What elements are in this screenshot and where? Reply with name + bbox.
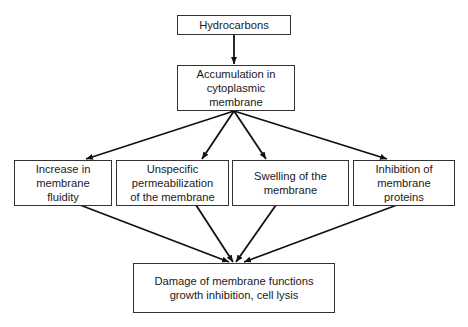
arrow-accumulation-to-swelling — [234, 111, 266, 159]
arrow-accumulation-to-fluidity — [86, 111, 234, 159]
node-label: Accumulation in — [197, 67, 276, 81]
node-accumulation: Accumulation in cytoplasmic membrane — [177, 65, 295, 111]
arrow-swelling-to-damage — [236, 205, 276, 262]
node-damage: Damage of membrane functions growth inhi… — [133, 263, 335, 313]
node-hydrocarbons: Hydrocarbons — [177, 15, 291, 35]
arrow-accumulation-to-inhibition — [234, 111, 387, 159]
arrow-fluidity-to-damage — [80, 205, 229, 262]
node-label: Damage of membrane functions — [154, 274, 313, 288]
node-label: growth inhibition, cell lysis — [170, 288, 299, 302]
node-label: Swelling of the — [254, 169, 327, 183]
arrow-accumulation-to-permeabilization — [202, 111, 234, 159]
node-fluidity: Increase in membrane fluidity — [14, 160, 112, 206]
node-label: Unspecific — [147, 162, 199, 176]
node-label: membrane — [36, 176, 89, 190]
node-label: cytoplasmic — [207, 81, 265, 95]
node-label: membrane — [377, 176, 430, 190]
node-label: proteins — [384, 190, 424, 204]
node-label: permeabilization — [132, 176, 213, 190]
node-inhibition: Inhibition of membrane proteins — [353, 160, 455, 206]
node-label: membrane — [209, 95, 262, 109]
node-label: fluidity — [47, 190, 79, 204]
node-label: Increase in — [36, 162, 91, 176]
node-permeabilization: Unspecific permeabilization of the membr… — [116, 160, 229, 206]
arrow-permeabilization-to-damage — [196, 205, 233, 262]
node-label: Inhibition of — [375, 162, 432, 176]
node-swelling: Swelling of the membrane — [232, 160, 349, 206]
node-label: membrane — [264, 183, 317, 197]
arrow-inhibition-to-damage — [244, 205, 397, 262]
node-label: Hydrocarbons — [199, 18, 269, 32]
node-label: of the membrane — [130, 190, 215, 204]
